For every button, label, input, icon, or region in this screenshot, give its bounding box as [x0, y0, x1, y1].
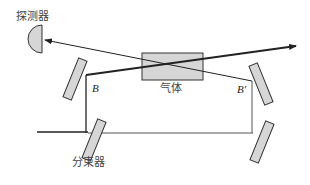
beam-splitter-label: 分束器	[72, 156, 105, 169]
mirror-b	[63, 58, 87, 100]
mirror-b-prime	[249, 63, 273, 105]
point-b-prime-label: B′	[237, 83, 247, 95]
gas-label: 气体	[160, 81, 182, 95]
mirror-bottom-right	[250, 121, 274, 163]
detector-label: 探测器	[16, 10, 49, 23]
point-b-label: B	[92, 82, 99, 94]
detector-icon	[28, 25, 42, 53]
interferometer-diagram: 探测器 气体 分束器 B B′	[0, 0, 310, 185]
